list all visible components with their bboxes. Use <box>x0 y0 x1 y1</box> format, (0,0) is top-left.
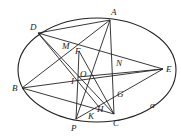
point-label-N: N <box>115 58 123 68</box>
point-label-D: D <box>29 22 37 32</box>
segment-AC <box>110 20 114 114</box>
point-label-K: K <box>87 111 95 121</box>
point-label-B: B <box>12 83 18 93</box>
segment-DA <box>38 20 110 33</box>
point-label-P: P <box>70 123 77 133</box>
point-label-F: F <box>74 46 81 56</box>
point-label-G: G <box>117 89 124 99</box>
point-label-H: H <box>96 104 104 114</box>
point-label-A: A <box>110 7 117 17</box>
ellipse-label: α <box>150 100 155 110</box>
point-label-M: M <box>61 41 70 51</box>
point-label-E: E <box>165 64 172 74</box>
point-label-C: C <box>113 118 120 128</box>
segment-DE <box>38 33 163 69</box>
geometry-diagram: DAEBPCMFOINGHK α <box>0 0 181 137</box>
point-label-O: O <box>80 69 87 79</box>
line-segments <box>22 20 163 119</box>
